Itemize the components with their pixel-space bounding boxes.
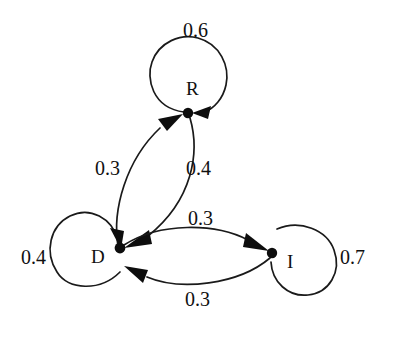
edge-R-to-D-arrowhead <box>124 230 152 248</box>
edge-R-to-R-path <box>150 37 227 112</box>
edge-D-to-R-path <box>117 128 160 246</box>
edge-label-R-to-R: 0.6 <box>183 20 208 40</box>
node-dot-D <box>115 243 126 254</box>
edge-I-to-D <box>124 258 270 284</box>
edge-I-to-D-path <box>147 258 270 284</box>
edge-I-to-I <box>271 225 336 295</box>
edge-label-R-to-D: 0.4 <box>186 158 211 178</box>
node-label-I: I <box>287 252 293 271</box>
edge-D-to-D-path <box>50 212 120 286</box>
edge-D-to-D <box>50 212 124 286</box>
node-label-D: D <box>91 247 105 266</box>
edge-D-to-R-arrowhead <box>158 114 183 131</box>
node-dot-R <box>183 108 193 118</box>
edge-label-D-to-I: 0.3 <box>188 208 213 228</box>
edge-I-to-I-path <box>271 225 336 295</box>
edge-label-D-to-D: 0.4 <box>21 247 46 267</box>
edge-D-to-R <box>117 114 183 246</box>
edge-R-to-D <box>124 118 194 248</box>
edge-label-I-to-I: 0.7 <box>340 247 365 267</box>
edge-label-I-to-D: 0.3 <box>185 289 210 309</box>
node-dot-I <box>267 248 277 258</box>
node-label-R: R <box>186 79 199 98</box>
edge-R-to-R-arrowhead <box>192 106 211 119</box>
state-transition-diagram: R D I 0.6 0.3 0.4 0.3 0.3 0.4 0.7 <box>0 0 397 350</box>
edge-D-to-I-arrowhead <box>243 233 269 251</box>
edge-I-to-D-arrowhead <box>124 266 148 283</box>
edge-label-D-to-R: 0.3 <box>95 158 120 178</box>
